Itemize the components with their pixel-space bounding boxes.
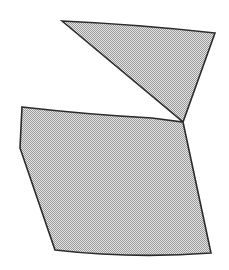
concave-polygon-shape (20, 21, 215, 255)
figure-canvas (0, 0, 229, 270)
polygon-figure (0, 0, 229, 270)
